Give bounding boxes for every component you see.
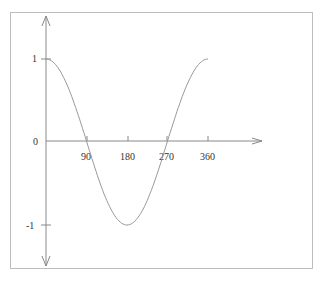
cosine-curve	[46, 59, 208, 225]
y-label-neg1: -1	[26, 220, 34, 231]
y-label-1: 1	[32, 53, 37, 64]
y-label-0: 0	[33, 136, 38, 147]
x-label-90: 90	[81, 151, 91, 162]
cosine-chart: 1 0 -1 90 180 270 360	[0, 0, 321, 283]
x-label-360: 360	[200, 151, 215, 162]
x-label-180: 180	[120, 151, 135, 162]
